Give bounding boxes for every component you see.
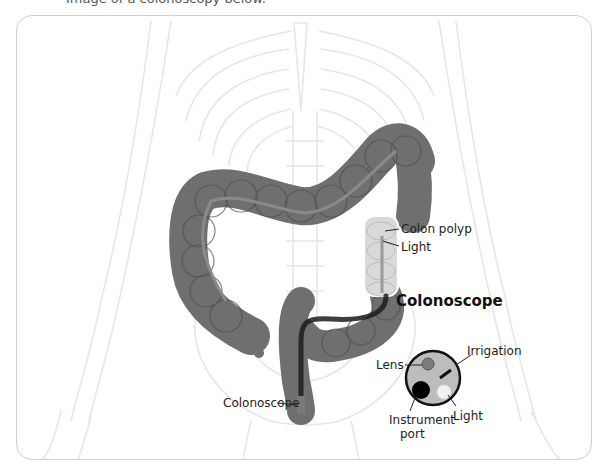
- label-instrument-port-1: Instrument: [389, 413, 455, 427]
- diagram-card: Colon polyp Light Colonoscope Colonoscop…: [16, 15, 592, 460]
- label-irrigation: Irrigation: [467, 344, 522, 358]
- colon-highlighted-section: [364, 216, 398, 296]
- label-lens: Lens: [376, 358, 404, 372]
- inset-title: Colonoscope: [396, 292, 503, 310]
- label-light-inside: Light: [401, 240, 431, 254]
- label-colon-polyp: Colon polyp: [401, 222, 472, 236]
- colonoscope-tip-inset: [405, 351, 471, 411]
- label-instrument-port-2: port: [400, 427, 425, 441]
- caption-text: Image of a colonoscopy below.: [66, 0, 266, 6]
- label-colonoscope-tip: Colonoscope: [223, 396, 300, 410]
- colonoscopy-illustration: [16, 15, 592, 460]
- label-light: Light: [453, 409, 483, 423]
